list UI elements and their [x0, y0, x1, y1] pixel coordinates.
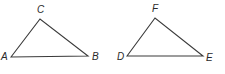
vertex-label-f: F: [152, 3, 159, 14]
triangle-def-shape: [127, 18, 203, 56]
geometry-figure: A C B D F E: [0, 0, 225, 74]
vertex-label-b: B: [92, 51, 99, 62]
triangle-def: D F E: [117, 3, 213, 63]
vertex-label-d: D: [117, 51, 124, 62]
triangles-diagram: A C B D F E: [0, 0, 225, 74]
vertex-label-a: A: [0, 51, 8, 62]
vertex-label-c: C: [37, 4, 45, 15]
vertex-label-e: E: [206, 52, 213, 63]
triangle-abc: A C B: [0, 4, 99, 62]
triangle-abc-shape: [11, 19, 88, 57]
